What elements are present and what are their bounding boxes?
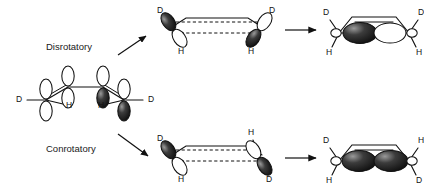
con-ts-p-orbital-left: [158, 138, 190, 178]
con-prod-back-lobe-right: [407, 157, 417, 165]
con-ts-label-d-right: D: [266, 174, 272, 184]
dis-ts-label-h-right: H: [248, 46, 254, 56]
dis-prod-back-lobe-right: [407, 29, 417, 37]
dis-ts-p-orbital-right: [243, 10, 275, 50]
reactant-butadiene: D H H D: [16, 66, 154, 121]
reactant-label-d-left: D: [16, 94, 22, 104]
disrotatory-label: Disrotatory: [46, 41, 92, 52]
conrotatory-arrow-icon: [118, 134, 148, 156]
con-ts-p-orbital-right: [243, 138, 275, 178]
con-prod-back-lobe-left: [331, 157, 341, 165]
con-prod-sigma-lobe-right: [374, 151, 408, 172]
con-prod-label-d-right: D: [416, 175, 422, 185]
dis-prod-label-d-left: D: [323, 7, 329, 17]
reactant-label-d-right: D: [148, 94, 154, 104]
dis-prod-sigma-lobe-light: [374, 23, 406, 43]
con-ts-label-h-left: H: [178, 174, 184, 184]
con-ts-label-d-left: D: [157, 133, 163, 143]
disrotatory-product: D H D H: [323, 7, 424, 57]
disrotatory-transition-state: D H D H: [157, 5, 275, 56]
disrotatory-arrow-icon: [118, 36, 146, 55]
dis-ts-p-orbital-left: [158, 10, 190, 50]
dis-ts-label-h-left: H: [178, 46, 184, 56]
dis-prod-sigma-lobe-dark: [343, 23, 377, 44]
con-prod-label-d-left: D: [323, 135, 329, 145]
reactant-label-h-left: H: [66, 100, 72, 110]
dis-prod-label-h-left: H: [326, 47, 332, 57]
conrotatory-label: Conrotatory: [46, 143, 96, 154]
con-ts-label-h-right: H: [248, 127, 254, 137]
conrotatory-transition-state: D H H D: [157, 127, 275, 184]
reactant-label-h-right: H: [98, 100, 104, 110]
dis-ts-label-d-right: D: [269, 5, 275, 15]
dis-prod-label-d-right: D: [418, 7, 424, 17]
conrotatory-product: D H H D: [323, 135, 424, 185]
electrocyclic-reaction-scheme: Disrotatory Conrotatory: [0, 0, 424, 194]
con-prod-label-h-right: H: [418, 135, 424, 145]
dis-prod-label-h-right: H: [416, 47, 422, 57]
dis-ts-label-d-left: D: [157, 5, 163, 15]
con-prod-label-h-left: H: [326, 175, 332, 185]
con-prod-sigma-lobe-left: [342, 151, 376, 172]
dis-prod-back-lobe-left: [331, 29, 341, 37]
